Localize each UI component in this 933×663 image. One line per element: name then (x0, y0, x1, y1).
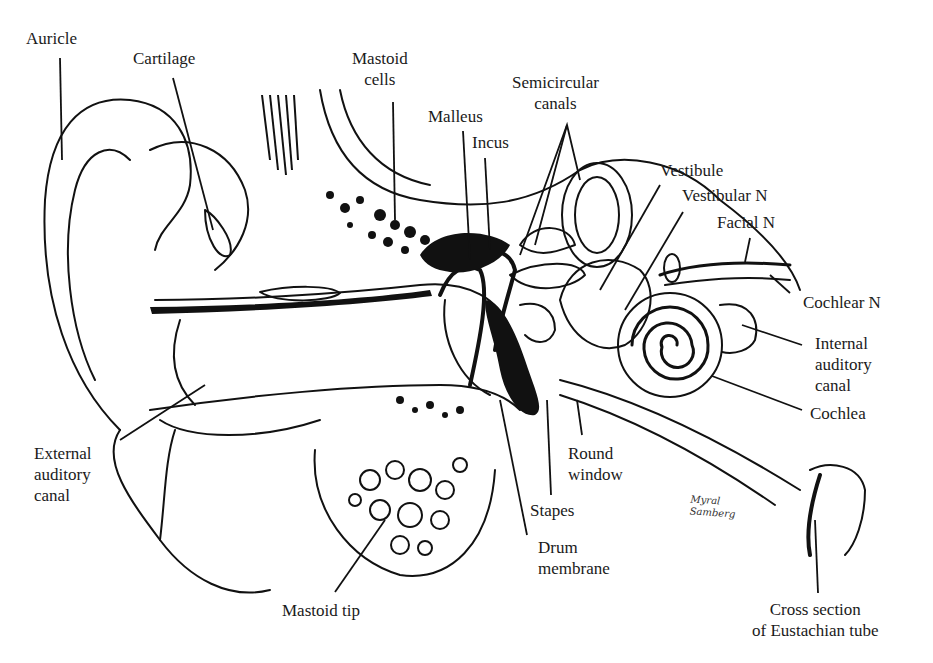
ear-illustration (0, 0, 933, 663)
label-facial-n: Facial N (717, 212, 775, 233)
label-mastoid-tip: Mastoid tip (282, 600, 360, 621)
label-cochlea: Cochlea (810, 403, 866, 424)
ear-anatomy-diagram: Auricle Cartilage Mastoid cells Malleus … (0, 0, 933, 663)
label-semicircular-canals: Semicircular canals (512, 72, 599, 114)
label-mastoid-cells: Mastoid cells (352, 48, 408, 90)
label-cartilage: Cartilage (133, 48, 195, 69)
cochlea-spiral (618, 293, 722, 397)
label-cochlear-n: Cochlear N (803, 292, 881, 313)
label-incus: Incus (472, 132, 509, 153)
label-internal-auditory-canal: Internal auditory canal (815, 333, 872, 396)
stapes-shape (520, 304, 555, 342)
label-auricle: Auricle (26, 28, 77, 49)
label-vestibule: Vestibule (660, 160, 723, 181)
label-malleus: Malleus (428, 106, 483, 127)
label-external-auditory-canal: External auditory canal (34, 443, 92, 506)
label-drum-membrane: Drum membrane (538, 537, 610, 579)
artist-signature: Myral Samberg (689, 493, 736, 520)
label-eustachian-tube: Cross section of Eustachian tube (752, 599, 879, 641)
malleus-shape (440, 267, 484, 385)
auricle-outline (44, 100, 190, 430)
label-vestibular-n: Vestibular N (682, 185, 767, 206)
cartilage-outline (150, 142, 248, 270)
label-stapes: Stapes (530, 500, 574, 521)
mastoid-cells-dots (326, 191, 464, 418)
mastoid-tip-cells (349, 458, 467, 555)
label-round-window: Round window (568, 443, 623, 485)
middle-ear-dark (485, 300, 539, 415)
ear-canal-lower (150, 385, 520, 410)
